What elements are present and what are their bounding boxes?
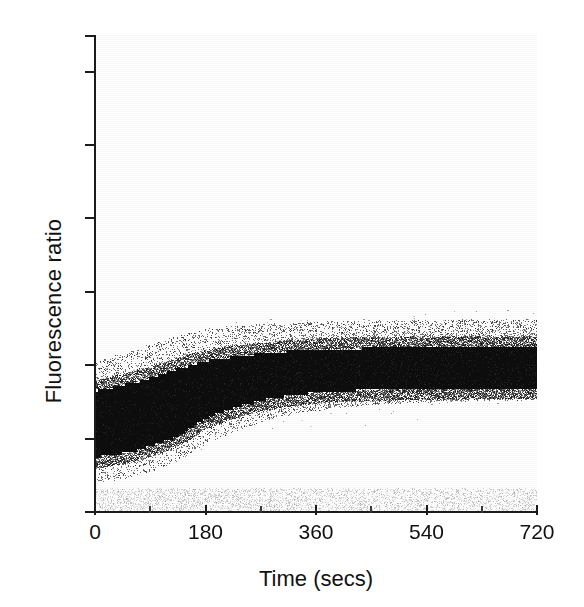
x-tick-minor-630: [481, 506, 483, 513]
scatter-density-canvas: [95, 35, 537, 512]
y-tick-40: [85, 217, 94, 219]
y-tick-10: [85, 438, 94, 440]
x-tick-0: [94, 505, 96, 515]
y-axis-line: [94, 35, 96, 514]
y-axis-label: Fluorescence ratio: [41, 161, 67, 461]
x-tick-label-180: 180: [166, 520, 246, 544]
x-tick-label-540: 540: [387, 520, 467, 544]
y-tick-0: [85, 511, 94, 513]
figure-panel: 0102030405060 0180360540720 Fluorescence…: [0, 0, 584, 607]
x-tick-360: [315, 505, 317, 515]
x-tick-180: [205, 505, 207, 515]
y-tick-20: [85, 364, 94, 366]
y-tick-50: [85, 144, 94, 146]
x-tick-minor-270: [260, 506, 262, 513]
x-tick-label-0: 0: [55, 520, 135, 544]
y-tick-30: [85, 291, 94, 293]
plot-area: [95, 35, 537, 512]
x-axis-label: Time (secs): [95, 566, 537, 592]
x-tick-label-360: 360: [276, 520, 356, 544]
x-tick-720: [536, 505, 538, 515]
x-tick-minor-450: [370, 506, 372, 513]
x-tick-540: [426, 505, 428, 515]
x-tick-minor-90: [149, 506, 151, 513]
x-tick-label-720: 720: [497, 520, 577, 544]
y-tick-60: [85, 71, 94, 73]
